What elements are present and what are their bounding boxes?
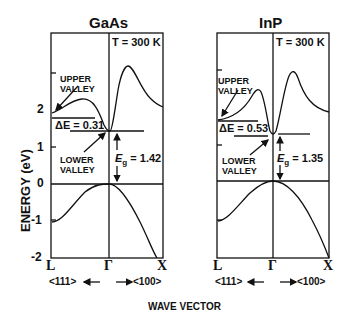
gaas-delta-e: ΔE = 0.31 — [55, 119, 104, 131]
inp-panel — [217, 33, 329, 258]
gaas-eg-label: Eg = 1.42 — [115, 152, 161, 167]
inp-dir-100: <100> — [297, 276, 325, 287]
y-tick-1: 1 — [37, 140, 44, 154]
inp-x-L: L — [213, 258, 222, 274]
gaas-dir-100: <100> — [133, 276, 161, 287]
gaas-title: GaAs — [89, 14, 128, 31]
inp-x-X: X — [323, 258, 333, 274]
gaas-dir-111: <111> — [49, 276, 76, 287]
inp-title: InP — [259, 14, 282, 31]
inp-x-gamma: Γ — [268, 258, 277, 274]
y-tick-2: 2 — [37, 102, 44, 116]
inp-dir-111: <111> — [215, 276, 242, 287]
inp-lower-valley-label: LOWERVALLEY — [222, 156, 257, 176]
y-tick-minus2: -2 — [31, 250, 42, 264]
y-tick-minus1: -1 — [31, 213, 42, 227]
gaas-x-gamma: Γ — [104, 258, 113, 274]
gaas-lower-valley-arrow — [84, 133, 105, 152]
inp-temperature: T = 300 K — [276, 36, 325, 48]
inp-eg-label: Eg = 1.35 — [277, 152, 323, 167]
inp-delta-e: ΔE = 0.53 — [219, 122, 268, 134]
inp-upper-valley-label: UPPERVALLEY — [218, 76, 253, 96]
y-tick-0: 0 — [37, 176, 44, 190]
gaas-frame — [51, 33, 163, 258]
gaas-panel — [51, 33, 163, 258]
x-axis-label: WAVE VECTOR — [148, 302, 221, 312]
gaas-lower-valley-label: LOWERVALLEY — [60, 155, 95, 175]
gaas-x-L: L — [46, 258, 55, 274]
gaas-valence-band — [52, 184, 157, 258]
gaas-x-X: X — [157, 258, 167, 274]
gaas-temperature: T = 300 K — [112, 36, 161, 48]
gaas-upper-valley-label: UPPERVALLEY — [60, 74, 95, 94]
inp-lower-valley-arrow — [250, 140, 268, 155]
